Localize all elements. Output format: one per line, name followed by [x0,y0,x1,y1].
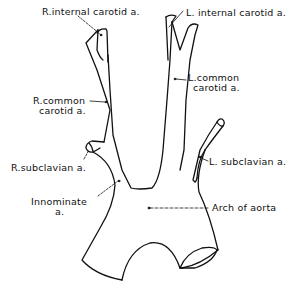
leader-r-subclavian [84,150,89,159]
leader-dot [118,180,120,182]
label-r-internal-carotid: R.internal carotid a. [42,7,140,17]
label-l-subclavian: L. subclavian a. [209,157,286,167]
leader-dot [105,101,107,103]
label-arch-of-aorta: Arch of aorta [212,203,276,213]
right-common-carotid-medial-edge [108,22,172,189]
right-subclavian-opening [89,143,93,151]
aortic-arch-diagram: R.internal carotid a. L. internal caroti… [0,0,298,287]
label-r-common-carotid: R.common carotid a. [33,96,86,116]
aorta-lower-arch [122,243,180,280]
left-subclavian-inner [193,122,217,182]
left-subclavian-opening [217,119,224,126]
leader-dot [174,78,176,80]
leader-l-common-carotid [176,79,186,80]
innominate-outer-curve [82,152,122,280]
right-internal-carotid-tip [97,29,108,62]
leader-dot [148,207,150,209]
left-subclavian-outer [205,126,223,150]
right-carotid-outer-edge [86,30,110,142]
label-l-common-carotid: L.common carotid a. [188,73,240,93]
label-innominate-line2: a. [31,207,87,217]
leader-dot [100,34,102,36]
left-carotid-lateral-edge [166,17,168,60]
vessel-drawing [0,0,298,287]
left-carotid-fork [172,22,198,170]
label-l-common-carotid-line2: carotid a. [188,83,240,93]
label-innominate: Innominate a. [31,197,87,217]
label-l-internal-carotid: L. internal carotid a. [186,8,286,18]
leader-l-internal-carotid [169,11,183,27]
descending-aorta-opening [180,247,217,268]
leader-dot [199,156,201,158]
leader-r-internal-carotid [78,16,100,34]
label-r-common-carotid-line2: carotid a. [33,106,86,116]
label-r-subclavian: R.subclavian a. [11,163,86,173]
leader-r-common-carotid [90,101,105,102]
